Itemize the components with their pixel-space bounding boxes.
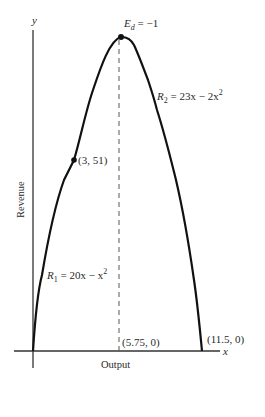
revenue-diagram: y x Output Revenue Ed = −1 R2 = 23x − 2x… — [0, 0, 265, 417]
kink-point — [71, 157, 77, 163]
x-axis-title: Output — [101, 359, 130, 370]
y-axis-label: y — [31, 14, 37, 26]
peak-point — [118, 34, 124, 40]
r1-label: R1 = 20x − x2 — [46, 267, 107, 284]
end-point-label: (11.5, 0) — [207, 333, 245, 346]
peak-label: Ed = −1 — [123, 17, 158, 32]
x-axis-label: x — [222, 345, 228, 357]
y-axis-title: Revenue — [15, 181, 26, 218]
r2-label: R2 = 23x − 2x2 — [156, 88, 223, 105]
midpoint-label: (5.75, 0) — [122, 336, 160, 349]
curve-r2 — [74, 37, 202, 351]
curve-r1 — [33, 160, 74, 351]
kink-point-label: (3, 51) — [78, 154, 108, 167]
